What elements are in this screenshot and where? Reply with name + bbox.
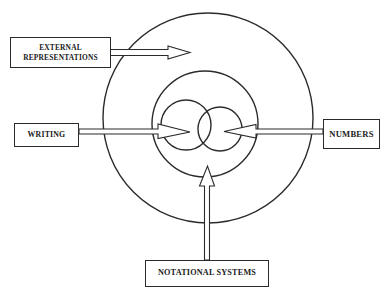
external-representations-label: EXTERNAL REPRESENTATIONS	[23, 43, 98, 62]
numbers-label: NUMBERS	[329, 129, 373, 140]
numbers-box[interactable]: NUMBERS	[323, 119, 380, 149]
arrow-writing-to-inner-left	[79, 124, 190, 139]
notational-systems-label: NOTATIONAL SYSTEMS	[158, 268, 256, 278]
arrow-notational-to-middle	[200, 166, 215, 260]
external-representations-box[interactable]: EXTERNAL REPRESENTATIONS	[10, 37, 111, 68]
writing-label: WRITING	[28, 130, 66, 140]
arrow-numbers-to-inner-right	[224, 125, 323, 139]
diagram-canvas: EXTERNAL REPRESENTATIONS WRITING NUMBERS…	[0, 0, 386, 294]
writing-box[interactable]: WRITING	[14, 123, 79, 147]
notational-systems-box[interactable]: NOTATIONAL SYSTEMS	[145, 260, 269, 287]
